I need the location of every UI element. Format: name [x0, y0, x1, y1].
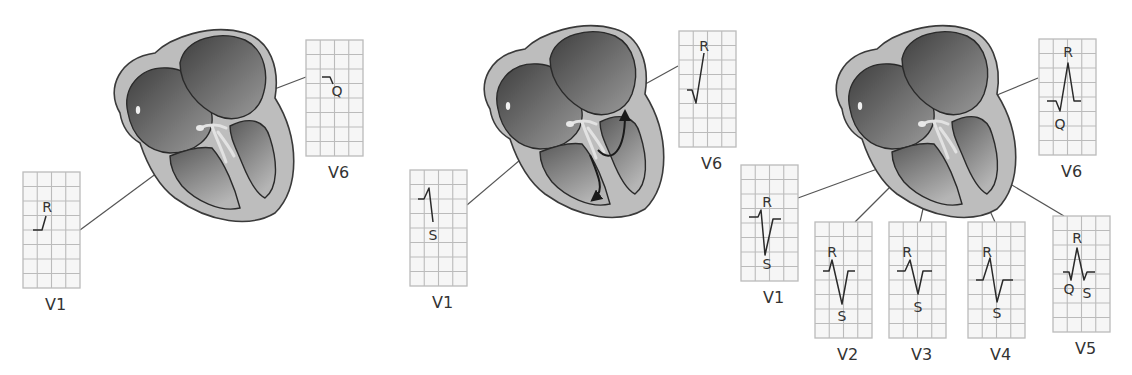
lead-box-ventricular-depolarization-v6: RV6	[679, 31, 736, 173]
ecg-precordial-leads-diagram: RV1QV6SV1RV6RSV1RSV2RSV3RSV4RQSV5RQV6	[0, 0, 1132, 375]
lead-name-label: V2	[837, 345, 858, 364]
lead-box-precordial-progression-v1: RSV1	[741, 165, 798, 307]
lead-name-label: V1	[432, 293, 453, 312]
wave-label-q: Q	[331, 83, 342, 99]
lead-box-precordial-progression-v6: RQV6	[1039, 39, 1096, 181]
wave-label-s: S	[838, 308, 847, 324]
wave-label-s: S	[763, 256, 772, 272]
connector-p2-v1	[467, 160, 520, 205]
lead-box-precordial-progression-v4: RSV4	[968, 222, 1025, 364]
connector-p3-v1	[798, 168, 880, 198]
wave-label-r: R	[982, 244, 992, 260]
lead-name-label: V6	[701, 154, 722, 173]
lead-box-septal-depolarization-v1: RV1	[23, 172, 80, 314]
wave-label-s: S	[429, 227, 438, 243]
lead-box-ventricular-depolarization-v1: SV1	[410, 170, 467, 312]
lead-box-precordial-progression-v3: RSV3	[889, 222, 946, 364]
wave-label-r: R	[1072, 230, 1082, 246]
lead-name-label: V4	[990, 345, 1011, 364]
wave-label-r: R	[42, 199, 52, 215]
wave-label-q: Q	[1054, 116, 1065, 132]
lead-box-precordial-progression-v5: RQSV5	[1053, 216, 1110, 358]
lead-name-label: V5	[1075, 339, 1096, 358]
lead-name-label: V6	[328, 163, 349, 182]
wave-label-r: R	[1063, 44, 1073, 60]
wave-label-r: R	[762, 194, 772, 210]
heart-illustration-1	[114, 30, 294, 222]
lead-box-precordial-progression-v2: RSV2	[815, 222, 872, 364]
wave-label-s: S	[914, 299, 923, 315]
heart-illustration-2	[484, 26, 664, 218]
wave-label-s: S	[1083, 285, 1092, 301]
lead-name-label: V3	[911, 345, 932, 364]
wave-label-r: R	[827, 244, 837, 260]
wave-label-s: S	[993, 305, 1002, 321]
heart-illustration-3	[836, 26, 1016, 218]
wave-label-r: R	[902, 244, 912, 260]
lead-name-label: V1	[45, 295, 66, 314]
lead-name-label: V6	[1061, 162, 1082, 181]
lead-box-septal-depolarization-v6: QV6	[306, 40, 363, 182]
lead-name-label: V1	[763, 288, 784, 307]
wave-label-q: Q	[1063, 281, 1074, 297]
connector-p1-v1	[80, 173, 157, 230]
wave-label-r: R	[699, 38, 709, 54]
